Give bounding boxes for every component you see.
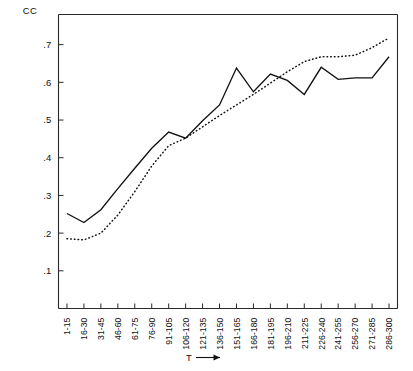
x-tick-label: 211-225	[300, 317, 310, 349]
x-tick-label: 16-30	[79, 317, 89, 340]
x-tick-label: 46-60	[113, 317, 123, 340]
x-tick-label: 151-165	[232, 317, 242, 349]
y-tick-label: .4	[43, 152, 51, 163]
correlation-coefficient-line-chart: .1.2.3.4.5.6.7 1-1516-3031-4546-6061-757…	[0, 0, 413, 371]
x-axis-tick-labels: 1-1516-3031-4546-6061-7576-9091-105106-1…	[62, 317, 394, 349]
x-tick-label: 121-135	[198, 317, 208, 349]
x-tick-label: 136-150	[215, 317, 225, 349]
x-tick-label: 61-75	[130, 317, 140, 340]
x-tick-label: 106-120	[181, 317, 191, 349]
y-tick-label: .1	[43, 265, 51, 276]
x-tick-label: 91-105	[164, 317, 174, 344]
x-tick-label: 241-255	[333, 317, 343, 349]
x-tick-label: 166-180	[249, 317, 259, 349]
y-axis-ticks	[59, 45, 64, 271]
x-tick-label: 196-210	[283, 317, 293, 349]
x-tick-label: 31-45	[96, 317, 106, 340]
y-tick-label: .2	[43, 228, 51, 239]
x-tick-label: 286-300	[384, 317, 394, 349]
y-axis-tick-labels: .1.2.3.4.5.6.7	[43, 39, 51, 276]
y-tick-label: .5	[43, 114, 51, 125]
x-tick-label: 76-90	[147, 317, 157, 340]
y-tick-label: .6	[43, 77, 51, 88]
x-axis-ticks	[67, 304, 389, 309]
x-axis-title: T	[186, 352, 192, 363]
x-tick-label: 181-195	[266, 317, 276, 349]
x-tick-label: 1-15	[62, 317, 72, 335]
chart-root: .1.2.3.4.5.6.7 1-1516-3031-4546-6061-757…	[0, 0, 413, 371]
y-axis-title: CC	[23, 5, 38, 16]
y-tick-label: .7	[43, 39, 51, 50]
x-tick-label: 271-285	[367, 317, 377, 349]
y-tick-label: .3	[43, 190, 51, 201]
series-line-dotted	[67, 38, 389, 240]
x-tick-label: 256-270	[350, 317, 360, 349]
x-axis-title-group: T	[186, 352, 220, 363]
x-axis-arrow-head	[214, 355, 221, 361]
x-tick-label: 226-240	[317, 317, 327, 349]
plot-frame	[59, 15, 398, 309]
series-line-solid	[67, 57, 389, 223]
